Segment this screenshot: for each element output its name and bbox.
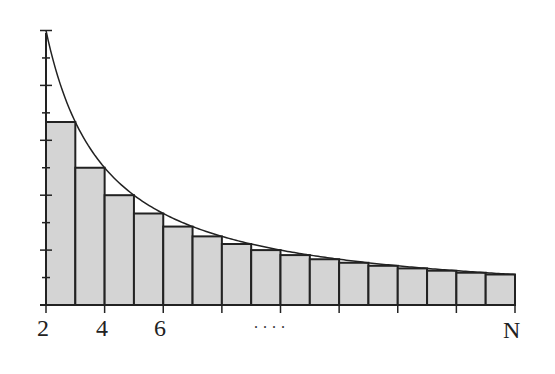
bar	[456, 273, 485, 305]
bar	[310, 259, 339, 305]
x-tick-label-4: 4	[96, 316, 108, 340]
bar	[222, 244, 251, 305]
bar	[281, 255, 310, 305]
x-tick-label-N: N	[503, 318, 520, 342]
bar	[398, 268, 427, 305]
bar	[193, 236, 222, 305]
bar	[163, 227, 192, 305]
x-tick-label-2: 2	[37, 316, 49, 340]
bar	[368, 266, 397, 305]
x-ticks	[46, 305, 515, 313]
x-tick-label-6: 6	[154, 316, 166, 340]
bar	[75, 168, 104, 305]
bar	[427, 271, 456, 305]
bar	[486, 275, 515, 306]
bar	[105, 195, 134, 305]
bar	[46, 122, 75, 305]
bar	[251, 250, 280, 305]
bar	[339, 263, 368, 305]
bars-group	[46, 122, 515, 305]
ellipsis: ....	[254, 314, 290, 332]
bar	[134, 214, 163, 306]
